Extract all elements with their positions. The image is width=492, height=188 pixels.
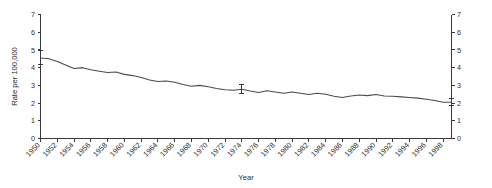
x-axis-tick-label: 1966 [158, 141, 176, 159]
x-axis-tick-label: 1988 [343, 141, 361, 159]
y-axis-right-tick-label: 4 [457, 63, 461, 72]
x-axis-tick-label: 1992 [376, 141, 394, 159]
x-axis-tick-label: 1972 [208, 141, 226, 159]
x-axis-tick-label: 1970 [192, 141, 210, 159]
x-axis-tick-label: 1958 [91, 141, 109, 159]
rate-per-100000-line-chart: 0123456701234567195019521954195619581960… [0, 0, 492, 188]
y-axis-left-tick-label: 3 [31, 81, 35, 90]
x-axis-tick-label: 1984 [309, 141, 327, 159]
x-axis-tick-label: 1974 [225, 141, 243, 159]
y-axis-left-tick-label: 7 [31, 10, 35, 19]
x-axis-tick-label: 1980 [276, 141, 294, 159]
x-axis-tick-label: 1990 [359, 141, 377, 159]
x-axis-tick-label: 1968 [175, 141, 193, 159]
x-axis-tick-label: 1956 [74, 141, 92, 159]
x-axis-tick-label: 1950 [24, 141, 42, 159]
x-axis-tick-label: 1964 [141, 141, 159, 159]
x-axis-tick-label: 1962 [125, 141, 143, 159]
x-axis-tick-label: 1976 [242, 141, 260, 159]
y-axis-right-tick-label: 1 [457, 116, 461, 125]
x-axis-tick-label: 1996 [410, 141, 428, 159]
x-axis-tick-label: 1994 [393, 141, 411, 159]
x-axis-tick-label: 1998 [427, 141, 445, 159]
x-axis-tick-label: 1954 [57, 141, 75, 159]
y-axis-left-tick-label: 2 [31, 99, 35, 108]
x-axis-tick-label: 1952 [41, 141, 59, 159]
y-axis-right-tick-label: 6 [457, 28, 461, 37]
y-axis-right-tick-label: 7 [457, 10, 461, 19]
y-axis-right-tick-label: 5 [457, 46, 461, 55]
x-axis-tick-label: 1978 [259, 141, 277, 159]
y-axis-right-tick-label: 3 [457, 81, 461, 90]
y-axis-left-tick-label: 5 [31, 46, 35, 55]
chart-container: 0123456701234567195019521954195619581960… [0, 0, 492, 188]
x-axis-title: Year [238, 173, 254, 182]
x-axis-tick-label: 1982 [292, 141, 310, 159]
y-axis-right-tick-label: 0 [457, 134, 461, 143]
y-axis-right-tick-label: 2 [457, 99, 461, 108]
x-axis-tick-label: 1986 [326, 141, 344, 159]
data-series-line [41, 58, 452, 102]
y-axis-left-tick-label: 6 [31, 28, 35, 37]
x-axis-tick-label: 1960 [108, 141, 126, 159]
y-axis-title: Rate per 100,000 [10, 47, 19, 106]
y-axis-left-tick-label: 1 [31, 116, 35, 125]
y-axis-left-tick-label: 4 [31, 63, 35, 72]
